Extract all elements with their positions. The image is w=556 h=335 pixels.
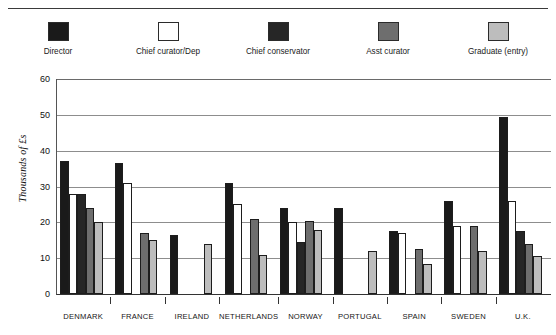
bar xyxy=(423,264,432,294)
bar-group xyxy=(56,79,111,294)
bar xyxy=(123,183,132,294)
bar xyxy=(499,117,508,294)
bar-group xyxy=(166,79,221,294)
chart-bars xyxy=(56,79,550,294)
legend-item: Director xyxy=(16,22,100,57)
bar xyxy=(69,194,78,294)
legend-swatch-icon xyxy=(158,22,179,41)
legend-swatch-icon xyxy=(268,22,289,41)
legend-item: Graduate (entry) xyxy=(456,22,540,57)
bar xyxy=(525,244,534,294)
bar xyxy=(233,204,242,294)
chart-plot-area: Thousands of £s 0102030405060 DENMARKFRA… xyxy=(0,75,556,335)
x-axis-tick xyxy=(165,297,166,304)
bar xyxy=(297,242,306,294)
bar xyxy=(478,251,487,294)
x-axis-tick xyxy=(387,297,388,304)
legend-item: Asst curator xyxy=(346,22,430,57)
x-axis-labels: DENMARKFRANCEIRELANDNETHERLANDSNORWAYPOR… xyxy=(56,297,550,323)
legend-swatch-icon xyxy=(378,22,399,41)
x-axis-group: IRELAND xyxy=(165,297,219,323)
y-tick-label: 60 xyxy=(40,75,50,84)
bar xyxy=(288,222,297,294)
bar xyxy=(368,251,377,294)
bar xyxy=(259,255,268,294)
bar xyxy=(453,226,462,294)
bar xyxy=(314,230,323,295)
bar xyxy=(533,256,542,294)
legend-swatch-icon xyxy=(488,22,509,41)
x-axis-label: SPAIN xyxy=(402,312,425,323)
bar xyxy=(415,249,424,294)
bar xyxy=(280,208,289,294)
x-axis-group: NETHERLANDS xyxy=(219,297,278,323)
bar xyxy=(470,226,479,294)
bar xyxy=(250,219,259,294)
y-tick-label: 40 xyxy=(40,146,50,155)
legend-item-label: Graduate (entry) xyxy=(468,47,528,57)
x-axis-tick xyxy=(333,297,334,304)
bar xyxy=(204,244,213,294)
y-axis-ticks: 0102030405060 xyxy=(24,79,50,294)
x-axis-label: SWEDEN xyxy=(451,312,486,323)
bar xyxy=(115,163,124,294)
bar xyxy=(305,221,314,294)
bar xyxy=(444,201,453,294)
x-axis-tick xyxy=(441,297,442,304)
x-axis-tick xyxy=(496,297,497,304)
bar xyxy=(149,240,158,294)
bar xyxy=(140,233,149,294)
x-axis-label: IRELAND xyxy=(175,312,210,323)
x-axis-label: NETHERLANDS xyxy=(219,312,278,323)
x-axis-tick xyxy=(278,297,279,304)
legend-item-label: Chief conservator xyxy=(246,47,310,57)
legend-item-label: Director xyxy=(44,47,73,57)
chart-legend: DirectorChief curator/DepChief conservat… xyxy=(0,22,556,57)
legend-item-label: Chief curator/Dep xyxy=(136,47,200,57)
y-tick-label: 30 xyxy=(40,182,50,191)
x-axis-label: DENMARK xyxy=(63,312,103,323)
bar xyxy=(77,194,86,294)
x-axis-group: FRANCE xyxy=(110,297,164,323)
x-axis-group: SWEDEN xyxy=(441,297,495,323)
bar-group xyxy=(385,79,440,294)
header-divider xyxy=(8,8,548,9)
x-axis-label: FRANCE xyxy=(121,312,154,323)
x-axis-label: U.K. xyxy=(515,312,531,323)
x-axis-group: SPAIN xyxy=(387,297,441,323)
bar-group xyxy=(440,79,495,294)
x-axis-tick xyxy=(110,297,111,304)
y-tick-label: 20 xyxy=(40,218,50,227)
bar xyxy=(94,222,103,294)
y-tick-label: 50 xyxy=(40,110,50,119)
bar-group xyxy=(495,79,550,294)
x-axis-group: NORWAY xyxy=(278,297,332,323)
bar-group xyxy=(111,79,166,294)
bar xyxy=(60,161,69,294)
x-axis-tick xyxy=(219,297,220,304)
bar xyxy=(389,231,398,294)
bar-group xyxy=(276,79,331,294)
x-axis-group: U.K. xyxy=(496,297,550,323)
legend-swatch-icon xyxy=(48,22,69,41)
legend-item: Chief conservator xyxy=(236,22,320,57)
y-tick-label: 0 xyxy=(45,290,50,299)
bar xyxy=(170,235,179,294)
bar xyxy=(398,233,407,294)
bar xyxy=(86,208,95,294)
x-axis-label: PORTUGAL xyxy=(338,312,382,323)
x-axis-label: NORWAY xyxy=(288,312,323,323)
bar xyxy=(508,201,517,294)
legend-item: Chief curator/Dep xyxy=(126,22,210,57)
bar-group xyxy=(221,79,276,294)
x-axis-group: DENMARK xyxy=(56,297,110,323)
bar-group xyxy=(330,79,385,294)
bar xyxy=(225,183,234,294)
bar xyxy=(516,231,525,294)
y-tick-label: 10 xyxy=(40,254,50,263)
bar xyxy=(334,208,343,294)
x-axis-group: PORTUGAL xyxy=(333,297,387,323)
legend-item-label: Asst curator xyxy=(366,47,410,57)
